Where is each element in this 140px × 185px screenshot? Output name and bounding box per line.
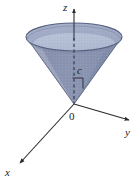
origin-label: 0 [69,110,75,122]
cone-figure: z y x 0 c [0,0,140,185]
axis-label-x: x [4,166,10,178]
figure-canvas: z y x 0 c [0,0,140,185]
axis-label-z: z [62,1,68,13]
height-label-c: c [77,65,82,76]
axis-label-y: y [124,126,130,138]
